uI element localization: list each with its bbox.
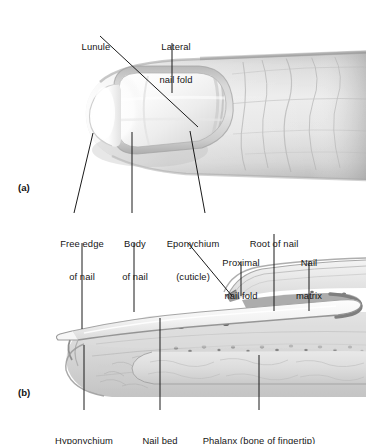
- label-body-of-nail-line-2: of nail: [122, 271, 148, 282]
- label-proximal-nail-fold-line-1: Proximal: [222, 257, 259, 268]
- label-body-of-nail: Body of nail: [122, 216, 148, 304]
- panel-a-artwork: [86, 52, 366, 180]
- panel-tag-b: (b): [18, 387, 30, 398]
- label-body-of-nail-line-1: Body: [122, 238, 148, 249]
- phalanx-bone: [132, 351, 366, 384]
- label-hyponychium-line-1: Hyponychium: [55, 435, 113, 444]
- label-proximal-nail-fold-line-2: nail fold: [222, 290, 259, 301]
- label-nail-matrix: Nail matrix: [296, 235, 322, 323]
- leader-free-edge-a: [74, 133, 93, 213]
- label-hyponychium: Hyponychium: [55, 413, 113, 444]
- label-phalanx: Phalanx (bone of fingertip): [203, 413, 316, 444]
- label-lateral-nail-fold-line-1: Lateral: [159, 41, 192, 52]
- panel-tag-a: (a): [18, 182, 30, 193]
- label-eponychium-line-2: (cuticle): [167, 271, 220, 282]
- label-nail-bed: Nail bed: [142, 413, 177, 444]
- label-proximal-nail-fold: Proximal nail fold: [222, 235, 259, 323]
- label-nail-matrix-line-2: matrix: [296, 290, 322, 301]
- label-free-edge-of-nail-line-1: Free edge: [60, 238, 104, 249]
- label-lateral-nail-fold-line-2: nail fold: [159, 74, 192, 85]
- label-eponychium-line-1: Eponychium: [167, 238, 220, 249]
- label-lateral-nail-fold: Lateral nail fold: [159, 19, 192, 107]
- label-eponychium-cuticle: Eponychium (cuticle): [167, 216, 220, 304]
- label-free-edge-of-nail: Free edge of nail: [60, 216, 104, 304]
- label-nail-bed-line-1: Nail bed: [142, 435, 177, 444]
- label-phalanx-line-1: Phalanx (bone of fingertip): [203, 435, 316, 444]
- label-lunule-line-1: Lunule: [82, 41, 111, 52]
- nail-anatomy-figure: (a) (b) Lunule Lateral nail fold Free ed…: [0, 0, 366, 444]
- label-nail-matrix-line-1: Nail: [296, 257, 322, 268]
- label-free-edge-of-nail-line-2: of nail: [60, 271, 104, 282]
- label-lunule: Lunule: [82, 19, 111, 74]
